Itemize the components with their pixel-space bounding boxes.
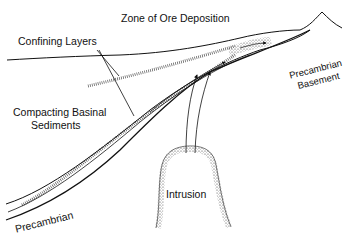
- label-zone-of-ore-deposition: Zone of Ore Deposition: [121, 13, 230, 24]
- label-compacting-line1: Compacting Basinal: [13, 106, 106, 119]
- label-compacting-sediments: Compacting Basinal Sediments: [13, 106, 106, 132]
- inner-aquifer-line: [8, 55, 250, 212]
- leader-line-1: [97, 50, 119, 76]
- fluid-arrow-right: [195, 72, 210, 153]
- label-confining-layers: Confining Layers: [18, 36, 97, 47]
- label-intrusion: Intrusion: [166, 189, 206, 200]
- label-compacting-line2: Sediments: [13, 119, 106, 132]
